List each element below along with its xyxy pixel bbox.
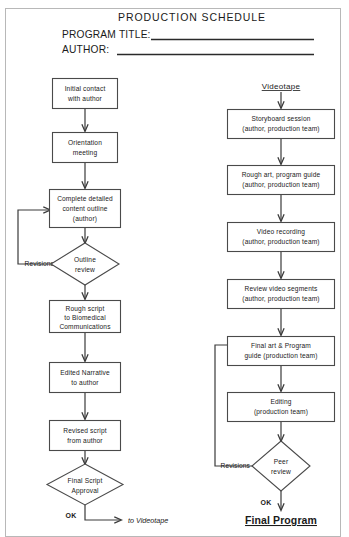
node-content-outline-line-2: content outline <box>62 205 107 212</box>
edge-label-revisions-right: Revisions <box>221 462 251 469</box>
node-outline-review-line-1: Outline <box>74 256 96 263</box>
node-rough-script-line-2: to Biomedical <box>64 314 106 321</box>
node-peer-review-line-2: review <box>271 468 291 475</box>
node-rough-script-line-3: Communications <box>59 323 111 330</box>
node-final-art[interactable]: Final art & Program guide (production te… <box>228 337 335 366</box>
node-editing-line-1: Editing <box>270 398 291 406</box>
node-initial-contact[interactable]: Initial contact with author <box>53 79 118 109</box>
node-final-script-approval[interactable]: Final Script Approval <box>47 464 123 505</box>
node-edited-narrative-line-1: Edited Narrative <box>60 369 110 376</box>
node-content-outline[interactable]: Complete detailed content outline (autho… <box>50 190 121 228</box>
edge-label-revisions-left: Revisions <box>25 260 55 267</box>
node-content-outline-line-3: (author) <box>73 215 97 223</box>
node-rough-art[interactable]: Rough art, program guide (author, produc… <box>228 166 335 195</box>
production-schedule-page: PRODUCTION SCHEDULE PROGRAM TITLE: AUTHO… <box>0 0 349 537</box>
program-title-label: PROGRAM TITLE: <box>62 29 151 40</box>
node-review-video-segments-line-2: (author, production team) <box>242 295 319 303</box>
node-final-art-line-2: guide (production team) <box>244 352 317 360</box>
node-final-art-line-1: Final art & Program <box>251 342 311 350</box>
node-rough-art-line-1: Rough art, program guide <box>242 171 321 179</box>
page-title: PRODUCTION SCHEDULE <box>118 11 266 23</box>
node-outline-review[interactable]: Outline review <box>51 243 119 285</box>
node-revised-script[interactable]: Revised script from author <box>50 421 121 451</box>
node-rough-script[interactable]: Rough script to Biomedical Communication… <box>50 301 121 333</box>
edge-label-ok-right: OK <box>261 499 272 506</box>
node-storyboard-session[interactable]: Storyboard session (author, production t… <box>228 110 335 139</box>
node-orientation-meeting-line-1: Orientation <box>68 139 102 146</box>
node-initial-contact-line-2: with author <box>67 95 103 102</box>
node-storyboard-session-line-1: Storyboard session <box>251 115 310 123</box>
node-peer-review[interactable]: Peer review <box>252 441 310 491</box>
node-initial-contact-line-1: Initial contact <box>65 85 106 92</box>
terminal-final-program: Final Program <box>245 514 317 526</box>
node-peer-review-line-1: Peer <box>274 458 289 465</box>
node-content-outline-line-1: Complete detailed <box>57 195 113 203</box>
author-label: AUTHOR: <box>62 44 109 55</box>
node-edited-narrative[interactable]: Edited Narrative to author <box>50 363 121 393</box>
node-editing[interactable]: Editing (production team) <box>228 393 335 422</box>
node-outline-review-line-2: review <box>75 266 95 273</box>
node-orientation-meeting-line-2: meeting <box>73 149 98 157</box>
node-revised-script-line-1: Revised script <box>63 427 107 435</box>
production-schedule-flowchart: PRODUCTION SCHEDULE PROGRAM TITLE: AUTHO… <box>0 0 349 537</box>
edge-ok-to-videotape <box>85 505 121 520</box>
node-rough-art-line-2: (author, production team) <box>242 181 319 189</box>
node-final-script-approval-line-1: Final Script <box>68 477 103 485</box>
edge-label-ok-left: OK <box>66 512 77 519</box>
node-rough-script-line-1: Rough script <box>66 305 105 313</box>
node-review-video-segments[interactable]: Review video segments (author, productio… <box>228 280 335 309</box>
node-editing-line-2: (production team) <box>254 408 308 416</box>
node-revised-script-line-2: from author <box>67 437 103 444</box>
videotape-column-heading: Videotape <box>262 82 301 91</box>
node-video-recording-line-2: (author, production team) <box>242 238 319 246</box>
node-edited-narrative-line-2: to author <box>71 379 99 386</box>
node-storyboard-session-line-2: (author, production team) <box>242 125 319 133</box>
terminal-to-videotape: to Videotape <box>128 516 168 525</box>
node-orientation-meeting[interactable]: Orientation meeting <box>53 133 118 163</box>
node-video-recording-line-1: Video recording <box>257 228 305 236</box>
node-final-script-approval-line-2: Approval <box>71 487 99 495</box>
node-review-video-segments-line-1: Review video segments <box>245 285 318 293</box>
node-video-recording[interactable]: Video recording (author, production team… <box>228 223 335 252</box>
